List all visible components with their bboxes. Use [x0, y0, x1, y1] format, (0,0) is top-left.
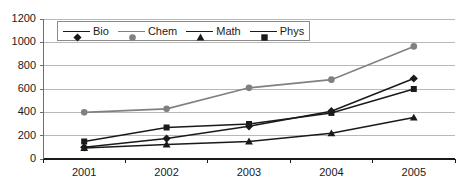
x-axis-tick-label: 2002	[125, 166, 207, 178]
legend-marker-diamond-icon	[63, 26, 90, 37]
data-point-triangle-marker	[410, 114, 418, 121]
legend-entry-math: Math	[186, 25, 240, 37]
legend-label: Math	[216, 25, 240, 37]
y-axis-tick-label: 1200	[0, 12, 36, 24]
legend-entry-chem: Chem	[118, 25, 177, 37]
data-point-circle-marker	[411, 43, 418, 50]
y-axis-tick-label: 600	[0, 82, 36, 94]
legend-marker-square-icon	[250, 26, 277, 37]
series-line-chem	[84, 46, 414, 112]
y-axis-tick-label: 0	[0, 152, 36, 164]
series-line-phys	[84, 89, 414, 142]
data-point-circle-marker	[246, 85, 253, 92]
data-point-square-marker	[81, 139, 87, 145]
y-axis-tick-label: 800	[0, 59, 36, 71]
data-point-circle-marker	[163, 106, 170, 113]
legend-marker-triangle-icon	[186, 26, 213, 37]
legend-label: Phys	[280, 25, 304, 37]
x-axis-tick-label: 2005	[373, 166, 455, 178]
legend-marker-circle-icon	[118, 26, 145, 37]
x-axis-tick-label: 2004	[290, 166, 372, 178]
data-point-square-marker	[246, 121, 252, 127]
chart-legend: BioChemMathPhys	[57, 21, 310, 41]
data-point-circle-marker	[328, 76, 335, 83]
legend-label: Chem	[148, 25, 177, 37]
y-axis-tick-label: 1000	[0, 35, 36, 47]
y-axis-tick-label: 200	[0, 129, 36, 141]
data-point-square-marker	[328, 110, 334, 116]
x-axis-tick-label: 2001	[43, 166, 125, 178]
x-axis-tick-label: 2003	[208, 166, 290, 178]
y-axis-tick-label: 400	[0, 105, 36, 117]
data-point-diamond-marker	[410, 74, 418, 82]
data-point-square-marker	[411, 86, 417, 92]
data-point-square-marker	[164, 125, 170, 131]
legend-entry-phys: Phys	[250, 25, 304, 37]
line-chart: 020040060080010001200 200120022003200420…	[0, 0, 469, 190]
legend-entry-bio: Bio	[63, 25, 109, 37]
legend-label: Bio	[93, 25, 109, 37]
data-point-circle-marker	[81, 109, 88, 116]
